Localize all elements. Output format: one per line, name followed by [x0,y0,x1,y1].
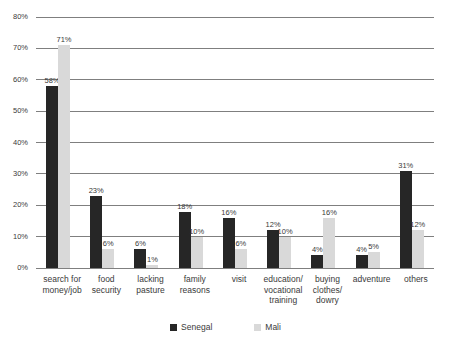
y-axis-tick-label: 10% [0,233,28,241]
y-axis-tick-label: 20% [0,201,28,209]
legend-item: Mali [254,322,281,332]
bar-value-label: 10% [275,228,295,236]
category-label-line: reasons [167,285,223,296]
legend-swatch-icon [170,324,177,331]
bar-value-label: 6% [98,240,118,248]
bar-group: 12%10% [257,17,301,268]
bar-senegal [46,86,58,268]
bar-value-label: 1% [142,256,162,264]
y-axis-tick-label: 60% [0,76,28,84]
bar-group: 58%71% [36,17,80,268]
bar-group: 16%6% [213,17,257,268]
bar-group: 4%16% [301,17,345,268]
bar-mali [102,249,114,268]
bar-value-label: 6% [231,240,251,248]
bar-value-label: 71% [54,36,74,44]
bar-group: 6%1% [124,17,168,268]
y-axis-tick-label: 50% [0,107,28,115]
bar-value-label: 10% [187,228,207,236]
bar-chart: 58%71%23%6%6%1%18%10%16%6%12%10%4%16%4%5… [0,0,451,344]
bar-group: 31%12% [390,17,434,268]
bar-value-label: 31% [396,162,416,170]
bar-mali [58,45,70,268]
bar-group: 23%6% [80,17,124,268]
category-label-line: dowry [299,295,355,306]
y-axis-tick-label: 0% [0,264,28,272]
plot-area: 58%71%23%6%6%1%18%10%16%6%12%10%4%16%4%5… [36,17,434,268]
bar-value-label: 12% [408,221,428,229]
x-axis-category-label: others [388,274,444,285]
bar-mali [146,265,158,268]
category-label-line: clothes/ [299,285,355,296]
bar-mali [323,218,335,268]
bar-value-label: 23% [86,187,106,195]
bar-mali [412,230,424,268]
bar-senegal [179,212,191,268]
category-label-line: others [388,274,444,285]
y-axis-tick-label: 40% [0,139,28,147]
legend-label: Mali [265,322,281,332]
y-axis-tick-label: 80% [0,13,28,21]
bar-mali [279,237,291,268]
y-axis-tick-label: 70% [0,44,28,52]
bar-value-label: 18% [175,203,195,211]
y-axis-tick-label: 30% [0,170,28,178]
bar-mali [368,252,380,268]
bar-senegal [311,255,323,268]
chart-legend: SenegalMali [0,322,451,332]
bar-senegal [90,196,102,268]
bar-value-label: 16% [219,209,239,217]
bar-senegal [356,255,368,268]
bar-value-label: 5% [364,243,384,251]
bar-mali [191,237,203,268]
bar-value-label: 16% [319,209,339,217]
bar-senegal [267,230,279,268]
legend-item: Senegal [170,322,212,332]
legend-swatch-icon [254,324,261,331]
bar-group: 18%10% [169,17,213,268]
bar-mali [235,249,247,268]
bar-group: 4%5% [346,17,390,268]
bar-value-label: 6% [130,240,150,248]
legend-label: Senegal [181,322,212,332]
